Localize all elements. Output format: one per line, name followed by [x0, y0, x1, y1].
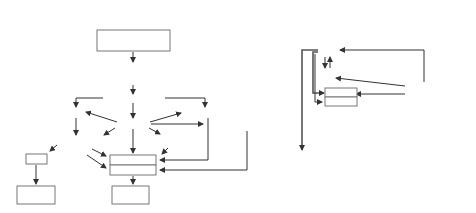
- arrow-hippocampus-to-bst: [76, 98, 103, 107]
- endocrine-response-box-a: [17, 186, 55, 204]
- arrow-sensory-to-pvn: [340, 50, 424, 82]
- arrow-sensory-to-lc: [336, 78, 405, 86]
- medulla-box-a: [110, 155, 156, 165]
- autonomic-response-box-a: [112, 186, 149, 204]
- arrow-parabrachial-to-medulla: [162, 148, 168, 154]
- pa-box-a: [26, 154, 47, 164]
- line-pvn-to-pa: [302, 50, 318, 148]
- medulla-box-b: [325, 88, 357, 97]
- arrow-pvn-to-spinal-cord: [87, 155, 106, 168]
- panel-b: [302, 50, 424, 150]
- stress-pathways-diagram: [0, 0, 476, 213]
- line-pvn-to-medulla: [313, 52, 322, 93]
- arrow-hippocampus-to-central-grey: [165, 98, 205, 107]
- exteroceptive-stress-box: [97, 30, 170, 51]
- arrow-amygdala-to-central-grey: [150, 113, 181, 122]
- arrow-amygdala-to-hypothalamus: [104, 128, 115, 135]
- arrow-pvn-to-medulla: [92, 149, 106, 156]
- spinal-box-b: [325, 97, 357, 106]
- panel-a: [17, 30, 247, 204]
- arrow-hypothalamus-to-pa: [50, 145, 57, 151]
- arrow-amygdala-to-bst: [86, 112, 117, 122]
- arrow-amygdala-to-parabrachial: [149, 128, 160, 134]
- spinal-cord-box-a: [110, 165, 156, 175]
- arrow-locus-coeruleus-to-spinal-cord: [160, 131, 247, 170]
- arrow-pvn-to-spinal: [315, 54, 322, 102]
